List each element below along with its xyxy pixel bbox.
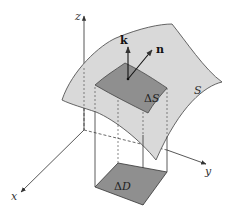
surface-integral-diagram: z x y ΔS S ΔD k n — [0, 0, 234, 213]
n-vector-label: n — [156, 43, 164, 56]
delta-s-label: ΔS — [144, 92, 160, 105]
delta-d-label: ΔD — [114, 180, 131, 193]
base-point — [127, 78, 130, 81]
surface-label: S — [194, 84, 202, 97]
z-axis-label: z — [74, 10, 81, 23]
x-axis-label: x — [11, 190, 18, 203]
k-vector-label: k — [120, 34, 128, 47]
delta-d-patch — [95, 163, 167, 205]
y-axis-label: y — [204, 165, 212, 178]
y-axis — [167, 150, 206, 164]
x-axis — [21, 130, 84, 192]
